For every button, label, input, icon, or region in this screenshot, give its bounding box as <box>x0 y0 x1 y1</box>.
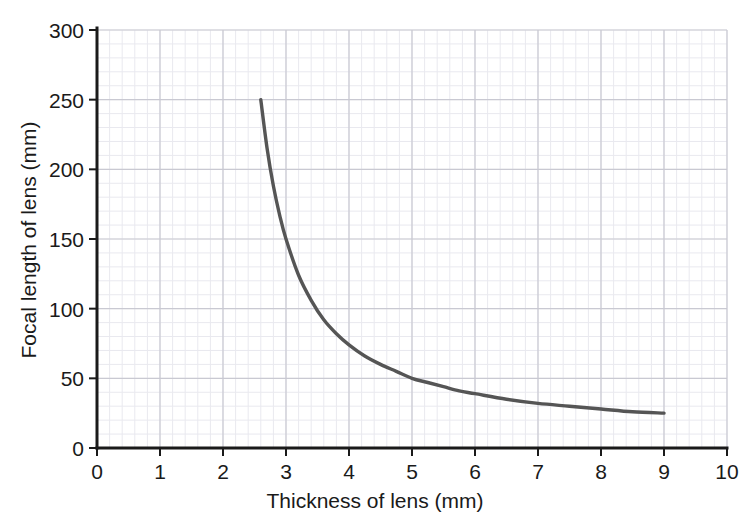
y-tick-label: 100 <box>49 298 84 321</box>
x-tick-label: 4 <box>343 460 355 483</box>
y-axis-tick-labels: 050100150200250300 <box>49 19 84 460</box>
chart-page: 012345678910 050100150200250300 Thicknes… <box>0 0 750 526</box>
x-tick-label: 10 <box>715 460 738 483</box>
x-axis-title: Thickness of lens (mm) <box>266 489 483 512</box>
y-tick-label: 300 <box>49 19 84 42</box>
x-tick-label: 7 <box>532 460 544 483</box>
x-axis-tick-labels: 012345678910 <box>91 460 739 483</box>
x-tick-label: 5 <box>406 460 418 483</box>
major-gridlines <box>97 30 727 448</box>
x-tick-label: 1 <box>154 460 166 483</box>
x-tick-label: 9 <box>658 460 670 483</box>
y-tick-label: 0 <box>72 437 84 460</box>
x-tick-label: 0 <box>91 460 103 483</box>
x-tick-label: 6 <box>469 460 481 483</box>
y-tick-label: 50 <box>61 367 84 390</box>
x-tick-label: 8 <box>595 460 607 483</box>
x-tick-label: 3 <box>280 460 292 483</box>
y-axis-title: Focal length of lens (mm) <box>17 122 40 359</box>
y-tick-label: 150 <box>49 228 84 251</box>
x-tick-label: 2 <box>217 460 229 483</box>
line-chart: 012345678910 050100150200250300 Thicknes… <box>0 0 750 526</box>
y-tick-label: 200 <box>49 158 84 181</box>
y-tick-label: 250 <box>49 89 84 112</box>
